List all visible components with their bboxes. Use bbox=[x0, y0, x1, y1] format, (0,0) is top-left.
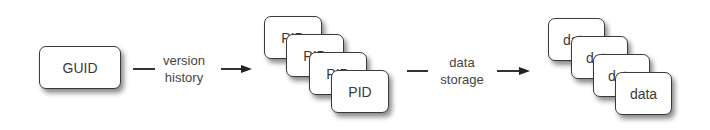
edge-data-storage-line-right bbox=[497, 70, 520, 72]
edge-data-storage-line-left bbox=[407, 70, 428, 72]
data-node-4: data bbox=[615, 72, 672, 115]
edge-data-storage-label: data storage bbox=[434, 54, 490, 88]
guid-label: GUID bbox=[63, 60, 98, 76]
pid-node-4: PID bbox=[331, 70, 389, 113]
guid-node: GUID bbox=[39, 46, 121, 89]
edge-version-history-line-right bbox=[221, 68, 243, 70]
edge-version-history-label: version history bbox=[157, 52, 211, 86]
edge-version-history-line-left bbox=[133, 68, 155, 70]
arrowhead-icon bbox=[241, 65, 252, 73]
arrowhead-icon bbox=[519, 67, 530, 75]
